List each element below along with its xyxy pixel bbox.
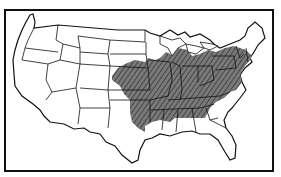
us-map [0,0,281,177]
map-figure [0,0,281,177]
